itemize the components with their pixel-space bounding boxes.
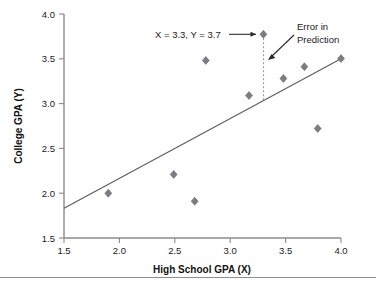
data-point[interactable] xyxy=(191,197,198,205)
y-tick-label-5: 4.0 xyxy=(42,9,55,20)
y-tick-label-4: 3.5 xyxy=(42,53,55,64)
data-points xyxy=(105,30,345,205)
data-point-highlighted[interactable] xyxy=(260,30,267,38)
y-axis-title: College GPA (Y) xyxy=(13,88,24,164)
regression-trendline xyxy=(64,59,341,208)
x-tick-label-0: 1.5 xyxy=(57,245,70,256)
error-annotation-leader xyxy=(270,35,294,58)
y-tick-label-0: 1.5 xyxy=(42,233,55,244)
data-point[interactable] xyxy=(280,74,287,82)
arrow-head-icon xyxy=(251,32,257,37)
error-annotation-line1: Error in xyxy=(297,21,328,32)
y-axis xyxy=(59,14,64,238)
data-point[interactable] xyxy=(105,189,112,197)
x-tick-label-5: 4.0 xyxy=(334,245,347,256)
coordinate-annotation: X = 3.3, Y = 3.7 xyxy=(155,29,256,40)
coordinate-annotation-label: X = 3.3, Y = 3.7 xyxy=(155,29,221,40)
data-point[interactable] xyxy=(301,63,308,71)
y-tick-label-1: 2.0 xyxy=(42,188,55,199)
scatter-plot-figure: 1.5 2.0 2.5 3.0 3.5 4.0 1.5 2.0 2.5 3.0 … xyxy=(0,0,376,291)
x-axis xyxy=(64,238,341,243)
y-tick-label-2: 2.5 xyxy=(42,143,55,154)
data-point[interactable] xyxy=(170,170,177,178)
x-axis-title: High School GPA (X) xyxy=(153,264,251,275)
arrow-head-icon xyxy=(268,54,275,60)
data-point[interactable] xyxy=(246,92,253,100)
error-annotation: Error in Prediction xyxy=(268,21,339,60)
data-point[interactable] xyxy=(338,55,345,63)
chart-canvas: 1.5 2.0 2.5 3.0 3.5 4.0 1.5 2.0 2.5 3.0 … xyxy=(0,0,376,291)
data-point[interactable] xyxy=(314,125,321,133)
x-tick-labels: 1.5 2.0 2.5 3.0 3.5 4.0 xyxy=(57,245,347,256)
x-tick-label-3: 3.0 xyxy=(224,245,237,256)
y-tick-label-3: 3.0 xyxy=(42,98,55,109)
x-tick-label-4: 3.5 xyxy=(279,245,292,256)
data-point[interactable] xyxy=(202,56,209,64)
bottom-divider xyxy=(0,277,376,278)
x-tick-label-2: 2.5 xyxy=(168,245,181,256)
error-annotation-line2: Prediction xyxy=(297,34,339,45)
x-tick-label-1: 2.0 xyxy=(113,245,126,256)
y-tick-labels: 1.5 2.0 2.5 3.0 3.5 4.0 xyxy=(42,9,55,244)
